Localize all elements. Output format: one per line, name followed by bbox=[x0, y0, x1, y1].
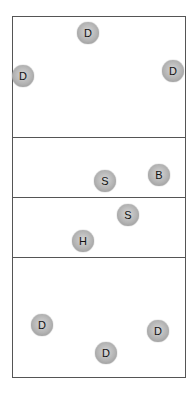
player-marker: D bbox=[95, 342, 117, 364]
player-marker: B bbox=[148, 164, 170, 186]
player-marker: D bbox=[77, 22, 99, 44]
player-marker: D bbox=[147, 320, 169, 342]
player-marker: S bbox=[94, 170, 116, 192]
court-divider-line bbox=[12, 197, 186, 198]
player-marker: D bbox=[12, 65, 34, 87]
player-marker: H bbox=[72, 230, 94, 252]
player-marker: S bbox=[117, 204, 139, 226]
court-divider-line bbox=[12, 137, 186, 138]
player-marker: D bbox=[31, 314, 53, 336]
player-marker: D bbox=[162, 60, 184, 82]
court-divider-line bbox=[12, 257, 186, 258]
